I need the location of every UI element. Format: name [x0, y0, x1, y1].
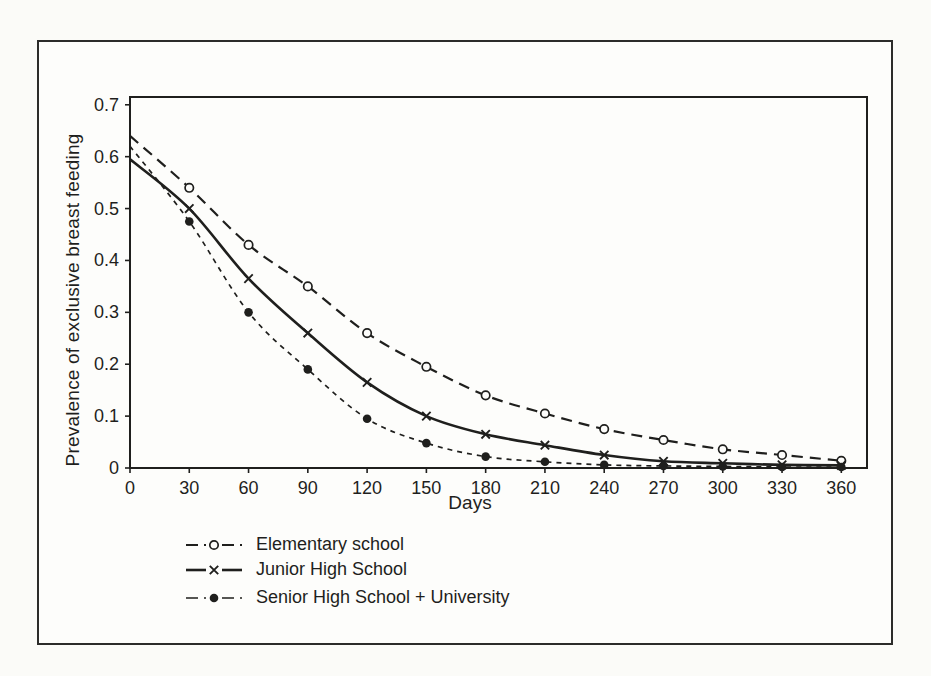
series-line-1 — [130, 159, 841, 465]
marker-circle-open-icon — [600, 425, 608, 433]
legend-item-elementary-school: Elementary school — [185, 533, 510, 556]
marker-circle-open-icon — [210, 540, 218, 548]
marker-x-icon — [363, 378, 371, 386]
marker-x-icon — [244, 274, 252, 282]
marker-circle-filled-icon — [659, 462, 668, 471]
series-line-2 — [130, 146, 841, 467]
marker-circle-open-icon — [363, 329, 371, 337]
y-axis-tick-label: 0.3 — [94, 302, 119, 322]
marker-circle-filled-icon — [718, 462, 727, 471]
figure-frame: 030609012015018021024027030033036000.10.… — [37, 40, 893, 645]
marker-circle-filled-icon — [541, 457, 550, 466]
marker-x-icon — [210, 565, 218, 573]
legend-item-junior-high-school: Junior High School — [185, 558, 510, 581]
legend-label-senior-high-school-university: Senior High School + University — [256, 587, 510, 608]
marker-circle-open-icon — [185, 184, 193, 192]
marker-circle-filled-icon — [837, 463, 846, 472]
marker-circle-filled-icon — [600, 461, 609, 470]
marker-circle-filled-icon — [363, 414, 372, 423]
marker-circle-filled-icon — [304, 365, 313, 374]
marker-circle-open-icon — [304, 282, 312, 290]
marker-circle-filled-icon — [244, 308, 253, 317]
y-axis-label: Prevalence of exclusive breast feeding — [62, 134, 84, 467]
marker-circle-filled-icon — [210, 593, 219, 602]
marker-circle-open-icon — [659, 436, 667, 444]
legend-label-elementary-school: Elementary school — [256, 534, 404, 555]
marker-x-icon — [304, 329, 312, 337]
plot-box — [130, 97, 867, 468]
marker-circle-open-icon — [778, 451, 786, 459]
legend-sample-elementary-school — [185, 538, 243, 552]
y-axis-tick-label: 0.6 — [94, 147, 119, 167]
series-line-0 — [130, 136, 841, 461]
marker-circle-filled-icon — [185, 217, 194, 226]
marker-circle-open-icon — [541, 409, 549, 417]
chart-legend: Elementary school Junior High School Sen… — [185, 533, 510, 609]
y-axis-tick-label: 0.2 — [94, 354, 119, 374]
marker-circle-open-icon — [719, 445, 727, 453]
legend-label-junior-high-school: Junior High School — [256, 559, 407, 580]
marker-x-icon — [185, 204, 193, 212]
legend-sample-junior-high-school — [185, 563, 243, 577]
y-axis-tick-label: 0.5 — [94, 199, 119, 219]
marker-circle-filled-icon — [481, 452, 490, 461]
y-axis-tick-label: 0 — [109, 458, 119, 478]
marker-circle-open-icon — [481, 391, 489, 399]
x-axis-label: Days — [130, 492, 810, 514]
scanned-figure-page: 030609012015018021024027030033036000.10.… — [0, 0, 931, 676]
y-axis-label-wrap: Prevalence of exclusive breast feeding — [53, 110, 93, 490]
y-axis-tick-label: 0.4 — [94, 250, 119, 270]
legend-item-senior-high-school-university: Senior High School + University — [185, 586, 510, 609]
legend-sample-senior-high-school-university — [185, 591, 243, 605]
marker-circle-filled-icon — [422, 439, 431, 448]
x-axis-tick-label: 360 — [826, 478, 856, 498]
marker-circle-open-icon — [422, 363, 430, 371]
y-axis-tick-label: 0.7 — [94, 95, 119, 115]
y-axis-tick-label: 0.1 — [94, 406, 119, 426]
marker-circle-filled-icon — [778, 463, 787, 472]
marker-circle-open-icon — [244, 241, 252, 249]
